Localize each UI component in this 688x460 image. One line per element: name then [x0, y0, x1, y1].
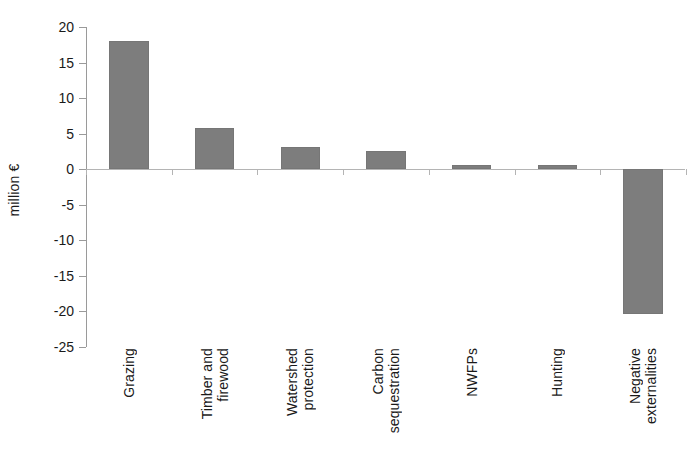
x-category-label-line: firewood [215, 348, 231, 402]
y-tick-label-text: -25 [18, 340, 74, 354]
x-category-label-line: Carbon [370, 348, 386, 395]
x-category-label-line: Grazing [121, 348, 137, 398]
x-tick [686, 169, 687, 175]
y-tick [79, 27, 86, 28]
bar [452, 165, 491, 169]
y-tick [79, 98, 86, 99]
bar [195, 128, 234, 169]
y-tick-label: -20 [18, 304, 74, 318]
bar [623, 169, 662, 313]
y-tick-label-text: -10 [18, 233, 74, 247]
y-tick-label-text: 20 [18, 20, 74, 34]
y-tick [79, 134, 86, 135]
y-tick [79, 347, 86, 348]
y-tick [79, 63, 86, 64]
bar [538, 165, 577, 169]
y-tick [79, 311, 86, 312]
x-axis-labels: GrazingTimber andfirewoodWatershedprotec… [86, 348, 686, 460]
y-tick-label: 10 [18, 91, 74, 105]
y-tick-label-text: -5 [18, 198, 74, 212]
y-tick-label-text: 15 [18, 56, 74, 70]
y-tick [79, 240, 86, 241]
x-category-label-line: sequestration [386, 348, 402, 433]
y-tick [79, 205, 86, 206]
y-tick-label: 5 [18, 127, 74, 141]
bar [109, 41, 148, 169]
x-category-label: Hunting [515, 348, 601, 456]
plot-area [86, 27, 686, 347]
bar [281, 147, 320, 169]
x-category-label-line: Timber and [199, 348, 215, 419]
y-tick-label: 15 [18, 56, 74, 70]
y-tick-label: -10 [18, 233, 74, 247]
x-category-label: NWFPs [429, 348, 515, 456]
x-category-label: Grazing [86, 348, 172, 456]
x-category-label: Carbonsequestration [343, 348, 429, 456]
x-category-label-line: Hunting [549, 348, 565, 397]
y-tick-label-text: -20 [18, 304, 74, 318]
y-tick-label-text: 0 [18, 162, 74, 176]
x-category-label: Negativeexternalities [600, 348, 686, 456]
x-category-label-line: Negative [627, 348, 643, 404]
x-category-label: Timber andfirewood [172, 348, 258, 456]
bar [366, 151, 405, 169]
y-tick-label: -25 [18, 340, 74, 354]
y-tick-label: -5 [18, 198, 74, 212]
y-tick [79, 276, 86, 277]
x-category-label-line: NWFPs [464, 348, 480, 397]
y-tick-label: -15 [18, 269, 74, 283]
y-tick-label-text: 10 [18, 91, 74, 105]
y-tick-label-text: 5 [18, 127, 74, 141]
x-category-label: Watershedprotection [257, 348, 343, 456]
x-category-label-line: externalities [643, 348, 659, 424]
y-tick-label-text: -15 [18, 269, 74, 283]
x-category-label-line: Watershed [284, 348, 300, 416]
x-category-label-line: protection [300, 348, 316, 410]
y-tick-label: 0 [18, 162, 74, 176]
bar-chart: million € 20151050-5-10-15-20-25 Grazing… [0, 0, 688, 460]
y-tick [79, 169, 86, 170]
y-tick-label: 20 [18, 20, 74, 34]
